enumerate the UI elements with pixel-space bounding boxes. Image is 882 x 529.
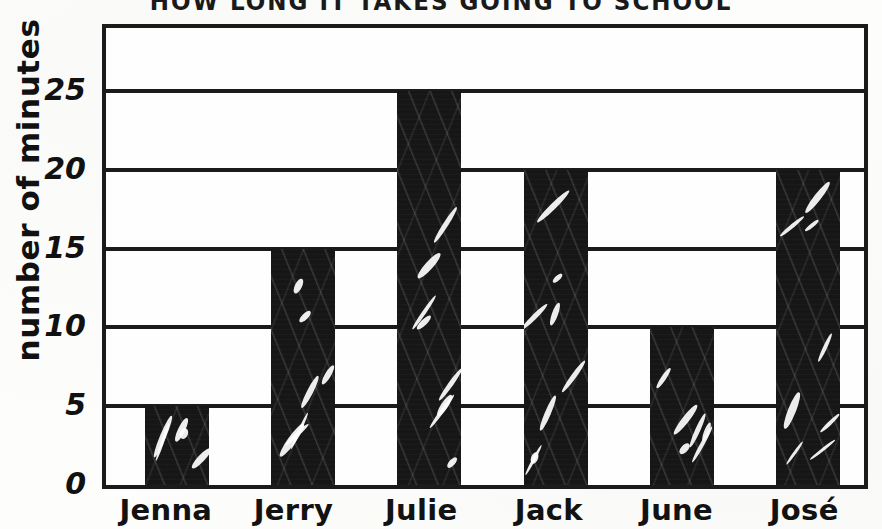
bar-june (650, 327, 714, 485)
scan-scratch (537, 395, 557, 432)
scan-scratch (435, 393, 455, 418)
scan-scratch (414, 250, 442, 280)
plot-area (106, 28, 864, 485)
bar-ink-texture (397, 91, 461, 485)
scan-scratch (816, 332, 832, 362)
scan-scratch (410, 294, 437, 330)
bar-ink-texture (650, 327, 714, 485)
y-tick-label-15: 15 (6, 233, 86, 263)
scan-scratch (785, 441, 804, 466)
bar-ink-texture (145, 406, 209, 485)
bar-ink-texture (271, 249, 335, 485)
bar-josé (776, 170, 840, 485)
x-axis-category-labels: JennaJerryJulieJackJuneJosé (102, 494, 868, 529)
scan-scratch (809, 439, 836, 461)
scan-scratch (437, 367, 461, 401)
scan-scratch (535, 189, 572, 226)
scan-scratch (284, 422, 310, 446)
y-tick-label-10: 10 (6, 311, 86, 341)
bar-ink-texture (524, 170, 588, 485)
x-axis-label-jenna: Jenna (102, 494, 230, 529)
scan-scratch (655, 367, 673, 390)
x-axis-label-julie: Julie (357, 494, 485, 529)
scan-scratch (671, 403, 699, 437)
scan-scratch (803, 180, 833, 215)
x-axis-label-jerry: Jerry (230, 494, 358, 529)
scan-scratch (551, 272, 563, 284)
gridline-15 (106, 247, 864, 251)
x-axis-label-jack: Jack (485, 494, 613, 529)
gridline-5 (106, 404, 864, 408)
chart-title: HOW LONG IT TAKES GOING TO SCHOOL (0, 0, 882, 16)
scan-scratch (677, 441, 691, 455)
gridline-20 (106, 168, 864, 172)
bar-jenna (145, 406, 209, 485)
scan-scratch (445, 455, 458, 469)
bar-chart: HOW LONG IT TAKES GOING TO SCHOOL number… (0, 0, 882, 529)
scan-scratch (700, 422, 712, 443)
scan-scratch (299, 374, 321, 409)
scan-scratch (297, 309, 312, 324)
x-axis-label-josé: José (740, 494, 868, 529)
gridline-10 (106, 325, 864, 329)
scan-scratch (781, 391, 802, 430)
scan-scratch (688, 412, 708, 448)
bar-jack (524, 170, 588, 485)
x-axis-label-june: June (613, 494, 741, 529)
bar-ink-texture (776, 170, 840, 485)
bar-jerry (271, 249, 335, 485)
scan-scratch (152, 415, 175, 459)
scan-scratch (155, 422, 171, 461)
scan-scratch (319, 364, 334, 386)
gridline-25 (106, 89, 864, 93)
scan-scratch (277, 422, 306, 459)
scan-scratch (178, 427, 189, 440)
scan-scratch (524, 302, 550, 331)
bar-julie (397, 91, 461, 485)
scan-scratch (290, 413, 310, 450)
scan-scratch (804, 219, 819, 232)
scan-scratch (429, 394, 456, 429)
scan-scratch (432, 206, 459, 244)
scan-scratch (560, 359, 587, 394)
y-tick-label-25: 25 (6, 75, 86, 105)
scan-scratch (690, 426, 714, 464)
scan-scratch (529, 451, 540, 465)
scan-scratch (415, 314, 433, 331)
scan-scratch (779, 215, 805, 238)
plot-frame (102, 24, 868, 489)
scan-scratch (173, 417, 191, 444)
y-tick-label-5: 5 (6, 390, 86, 420)
scan-scratch (190, 446, 209, 470)
y-tick-label-20: 20 (6, 154, 86, 184)
scan-scratch (291, 278, 304, 295)
scan-scratch (524, 444, 543, 475)
scan-scratch (820, 413, 841, 433)
scan-scratch (548, 302, 561, 326)
y-tick-label-0: 0 (6, 469, 86, 499)
